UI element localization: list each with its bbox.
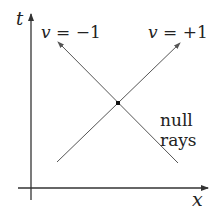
x-axis-label: x (192, 190, 203, 209)
event-point (116, 101, 120, 105)
t-axis-label: t (16, 10, 23, 28)
ray-label-value: = −1 (51, 22, 101, 42)
ray-label-var: v (41, 22, 51, 42)
ray-label-v-minus-1: v = −1 (41, 24, 101, 41)
null-rays-annotation-line1: null (160, 112, 193, 129)
ray-label-var: v (148, 22, 158, 42)
spacetime-diagram: t x v = −1 v = +1 null rays (0, 0, 219, 215)
ray-label-value: = +1 (158, 22, 208, 42)
null-rays-annotation-line2: rays (160, 132, 197, 149)
ray-label-v-plus-1: v = +1 (148, 24, 208, 41)
